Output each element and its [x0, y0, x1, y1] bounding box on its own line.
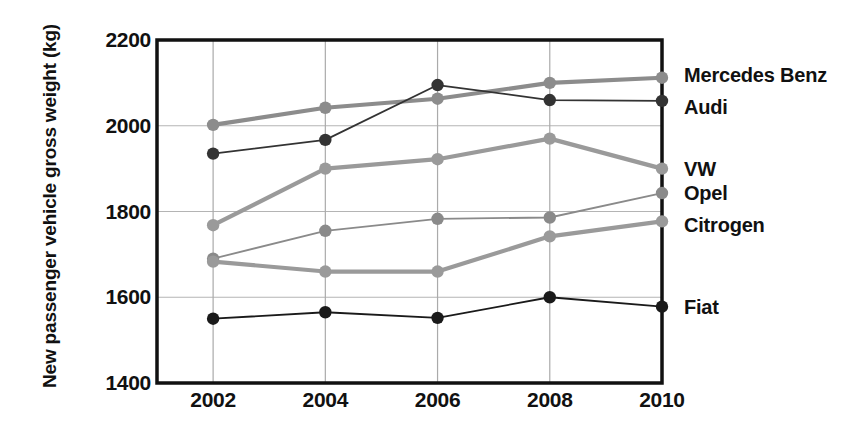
data-point-marker [431, 79, 443, 91]
x-axis-tick-label: 2010 [639, 388, 685, 412]
x-axis-tick-label: 2002 [190, 388, 236, 412]
data-point-marker [319, 162, 331, 174]
data-point-marker [207, 255, 219, 267]
data-point-marker [656, 187, 668, 199]
data-point-marker [544, 230, 556, 242]
series-label-opel: Opel [684, 182, 728, 205]
data-point-marker [656, 162, 668, 174]
data-point-marker [207, 312, 219, 324]
data-point-marker [431, 213, 443, 225]
data-point-marker [544, 291, 556, 303]
data-point-marker [656, 72, 668, 84]
x-axis-tick-label: 2004 [303, 388, 349, 412]
series-label-citrogen: Citrogen [684, 214, 765, 237]
data-point-marker [431, 312, 443, 324]
data-point-marker [319, 225, 331, 237]
series-label-fiat: Fiat [684, 295, 719, 318]
data-point-marker [544, 132, 556, 144]
data-point-marker [656, 300, 668, 312]
series-label-vw: VW [684, 157, 716, 180]
gridlines [157, 40, 662, 383]
data-point-marker [319, 265, 331, 277]
data-point-marker [544, 94, 556, 106]
data-point-marker [656, 95, 668, 107]
data-point-marker [431, 153, 443, 165]
data-point-marker [319, 306, 331, 318]
data-point-marker [544, 77, 556, 89]
data-point-marker [656, 215, 668, 227]
data-point-marker [319, 102, 331, 114]
series-label-audi: Audi [684, 95, 728, 118]
x-axis-tick-label: 2008 [527, 388, 573, 412]
series-label-mercedes-benz: Mercedes Benz [684, 63, 827, 86]
line-chart: New passenger vehicle gross weight (kg) … [0, 0, 867, 428]
data-point-marker [431, 93, 443, 105]
data-point-marker [431, 265, 443, 277]
data-point-marker [207, 219, 219, 231]
x-axis-tick-label: 2006 [415, 388, 461, 412]
data-point-marker [207, 119, 219, 131]
data-point-marker [544, 211, 556, 223]
data-point-marker [207, 147, 219, 159]
data-point-marker [319, 134, 331, 146]
